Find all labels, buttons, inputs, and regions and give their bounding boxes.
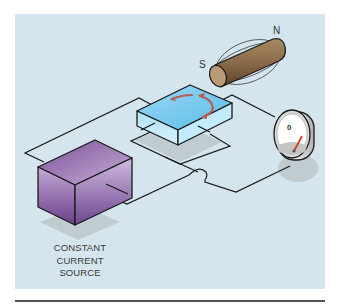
magnet-north-label: N (273, 25, 280, 36)
magnet-south-label: S (199, 59, 206, 70)
caption-line-2: CURRENT (45, 255, 115, 268)
source-caption: CONSTANT CURRENT SOURCE (45, 242, 115, 280)
bottom-rule (15, 300, 325, 302)
caption-line-1: CONSTANT (45, 242, 115, 255)
constant-current-source (38, 140, 132, 225)
galvanometer (274, 110, 314, 160)
bar-magnet (206, 31, 291, 94)
caption-line-3: SOURCE (45, 267, 115, 280)
meter-zero-label: 0 (287, 123, 291, 132)
